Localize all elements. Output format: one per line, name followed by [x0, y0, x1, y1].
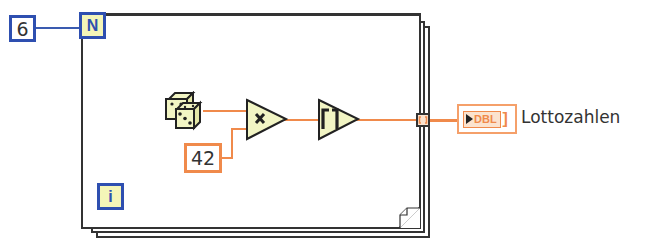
multiplier-constant[interactable]: 42 — [184, 143, 222, 173]
indicator-name-label: Lottozahlen — [521, 107, 620, 127]
array-bracket-icon — [418, 115, 428, 125]
dice-icon[interactable] — [163, 91, 203, 131]
iteration-terminal[interactable]: i — [97, 183, 124, 210]
lottozahlen-indicator[interactable]: DBL ] — [457, 104, 517, 134]
tunnel-to-indicator-wire[interactable] — [430, 119, 460, 122]
const-to-multiply-wire-v[interactable] — [231, 128, 233, 159]
indicator-arrow-icon — [466, 114, 473, 124]
count-terminal-label: N — [87, 17, 99, 35]
ceiling-to-tunnel-wire[interactable] — [355, 119, 417, 121]
count-constant[interactable]: 6 — [9, 15, 36, 42]
indicator-type-box: DBL — [463, 111, 501, 128]
indicator-type-label: DBL — [474, 113, 497, 125]
multiply-to-ceiling-wire[interactable] — [284, 119, 320, 121]
frame-top-edge — [100, 14, 421, 16]
count-wire[interactable] — [36, 27, 82, 29]
multiplier-constant-value: 42 — [191, 147, 215, 169]
ceiling-node[interactable] — [317, 98, 361, 142]
count-constant-value: 6 — [16, 18, 28, 40]
page-fold-icon — [399, 207, 421, 229]
frame-top-cover — [80, 0, 430, 13]
multiply-node[interactable] — [245, 98, 289, 142]
indicator-bracket: ] — [503, 110, 508, 128]
random-to-multiply-wire[interactable] — [203, 110, 249, 112]
output-tunnel[interactable] — [416, 113, 430, 127]
count-terminal[interactable]: N — [79, 12, 106, 39]
iteration-terminal-label: i — [108, 188, 112, 206]
